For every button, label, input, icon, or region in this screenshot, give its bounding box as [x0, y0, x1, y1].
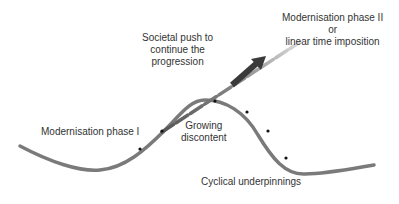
label-line: or: [282, 24, 383, 36]
label-modernisation-phase-2: Modernisation phase II or linear time im…: [282, 12, 383, 48]
push-arrow-icon: [232, 56, 266, 85]
label-line: linear time imposition: [282, 36, 383, 48]
label-growing-discontent: Growing discontent: [181, 120, 227, 144]
label-cyclical-underpinnings: Cyclical underpinnings: [201, 176, 301, 188]
label-modernisation-phase-1: Modernisation phase I: [41, 126, 139, 138]
label-societal-push: Societal push to continue the progressio…: [142, 32, 213, 68]
label-line: discontent: [181, 132, 227, 144]
label-line: Societal push to: [142, 32, 213, 44]
label-line: Growing: [181, 120, 227, 132]
label-line: continue the: [142, 44, 213, 56]
label-line: progression: [142, 56, 213, 68]
label-line: Modernisation phase II: [282, 12, 383, 24]
